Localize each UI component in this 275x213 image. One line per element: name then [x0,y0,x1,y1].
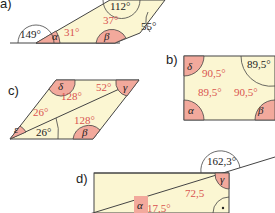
svg-text:α: α [137,199,143,211]
svg-text:112°: 112° [110,0,131,12]
svg-text:37°: 37° [103,14,118,26]
svg-text:b): b) [166,52,178,67]
svg-text:d): d) [76,171,88,186]
svg-text:β: β [81,126,88,138]
geometry-diagram: a) 149° α 31° 112° 37° β 55° b) δ 90,5° … [0,0,275,213]
figure-c [10,80,139,139]
svg-text:α: α [52,30,58,42]
svg-text:128°: 128° [61,90,82,102]
svg-text:89,5°: 89,5° [247,58,271,70]
svg-text:90,5°: 90,5° [202,67,226,79]
svg-text:26°: 26° [36,126,51,138]
svg-text:72,5: 72,5 [185,187,205,199]
svg-text:128°: 128° [74,114,95,126]
svg-text:γ: γ [123,81,128,93]
svg-text:55°: 55° [141,20,156,32]
svg-text:c): c) [8,83,19,98]
svg-text:β: β [257,104,264,116]
svg-text:ε: ε [14,123,19,135]
svg-text:162,3°: 162,3° [207,155,236,167]
svg-text:89,5°: 89,5° [198,86,222,98]
svg-text:α: α [188,104,194,116]
svg-text:a): a) [0,0,12,11]
svg-text:δ: δ [187,60,193,72]
svg-text:52°: 52° [96,81,111,93]
svg-text:17,5°: 17,5° [147,202,171,213]
svg-text:β: β [103,30,110,42]
svg-text:γ: γ [220,173,225,185]
svg-text:31°: 31° [64,26,79,38]
svg-text:26°: 26° [33,106,48,118]
angle-149: 149° [20,28,41,40]
figure-d [70,151,275,213]
svg-text:90,5°: 90,5° [234,86,258,98]
